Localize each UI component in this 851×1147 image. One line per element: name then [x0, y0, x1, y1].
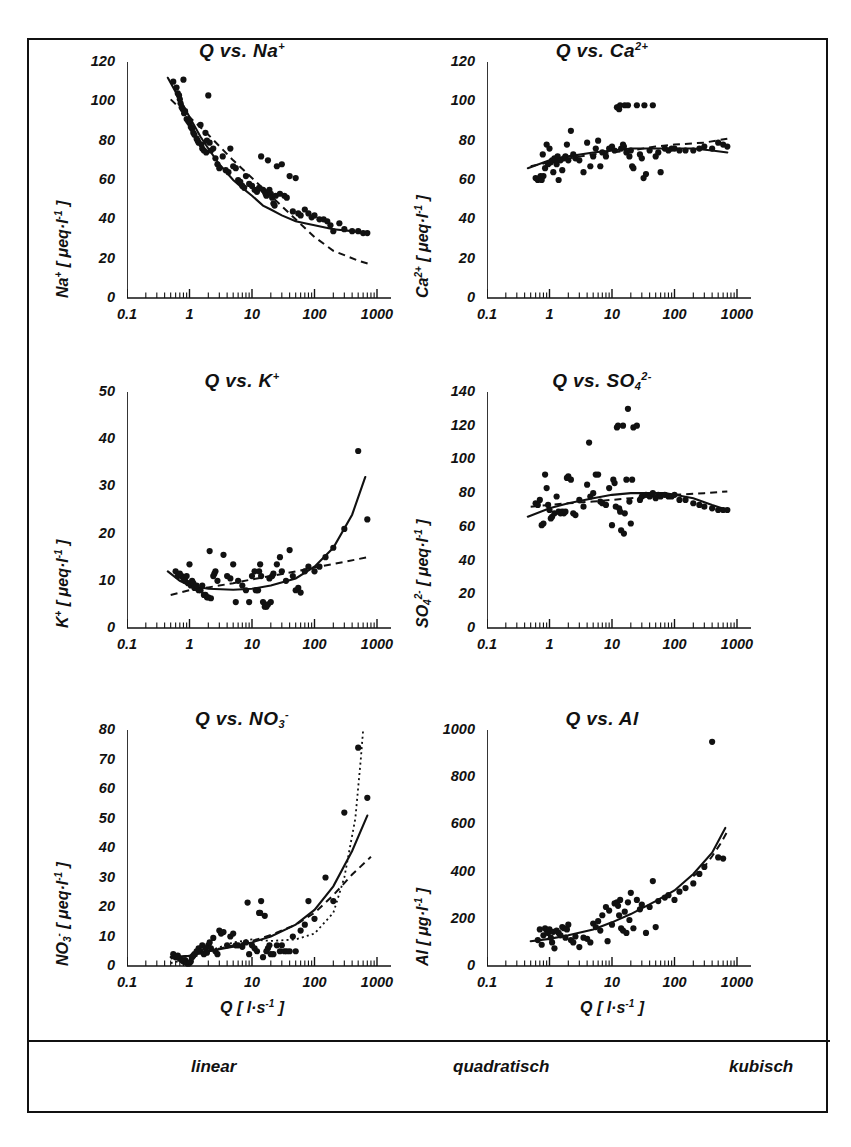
data-point [650, 102, 656, 108]
data-point [576, 497, 582, 503]
data-point [364, 230, 370, 236]
legend-label-linear: linear [191, 1057, 236, 1077]
panel-no3: Q vs. NO3-NO3- [ μeq·l-1 ]01020304050607… [37, 708, 417, 1034]
data-point [279, 568, 285, 574]
data-point [364, 516, 370, 522]
y-tick-no3-7: 70 [37, 751, 115, 767]
data-point [230, 930, 236, 936]
legend-label-kubisch: kubisch [729, 1057, 793, 1077]
y-tick-so4-4: 80 [397, 484, 475, 500]
data-point [184, 573, 190, 579]
data-point [243, 587, 249, 593]
y-axis-label-so4: SO42- [ μeq·l-1 ] [413, 519, 433, 628]
data-point [241, 185, 247, 191]
data-point [208, 595, 214, 601]
panel-title-no3: Q vs. NO3- [107, 708, 377, 730]
data-point [676, 889, 682, 895]
data-point [540, 173, 546, 179]
data-point [268, 599, 274, 605]
fit-curve-quadratisch-na [168, 78, 367, 233]
data-point [542, 472, 548, 478]
data-point [214, 951, 220, 957]
figure-legend: linear quadratisch kubisch [29, 1052, 830, 1098]
data-point [180, 77, 186, 83]
data-point [330, 545, 336, 551]
y-tick-so4-3: 60 [397, 518, 475, 534]
data-point [559, 167, 565, 173]
data-point [283, 578, 289, 584]
data-point [170, 79, 176, 85]
data-point [279, 161, 285, 167]
data-point [220, 153, 226, 159]
data-point [243, 173, 249, 179]
data-point [233, 165, 239, 171]
plot-area-so4 [487, 392, 777, 662]
data-point [549, 939, 555, 945]
data-point [287, 547, 293, 553]
data-point [584, 140, 590, 146]
data-point [539, 942, 545, 948]
data-point [572, 512, 578, 518]
x-axis-label-al: Q [ l·s-1 ] [477, 998, 747, 1017]
data-point [690, 500, 696, 506]
y-tick-so4-2: 40 [397, 552, 475, 568]
legend-separator [29, 1040, 830, 1042]
data-point [246, 951, 252, 957]
data-point [709, 145, 715, 151]
y-tick-al-5: 1000 [397, 721, 475, 737]
data-point [611, 480, 617, 486]
data-point [257, 561, 263, 567]
data-point [214, 578, 220, 584]
data-point [298, 928, 304, 934]
data-point [546, 145, 552, 151]
data-point [336, 220, 342, 226]
data-point [265, 157, 271, 163]
y-tick-ca-1: 20 [397, 250, 475, 266]
data-point [629, 477, 635, 483]
y-tick-no3-1: 10 [37, 928, 115, 944]
data-point [270, 571, 276, 577]
data-point [258, 573, 264, 579]
data-point [182, 108, 188, 114]
data-point [676, 497, 682, 503]
data-point [682, 147, 688, 153]
data-point [316, 564, 322, 570]
data-point [572, 933, 578, 939]
y-tick-k-4: 40 [37, 430, 115, 446]
data-point [628, 890, 634, 896]
data-point [623, 477, 629, 483]
data-point [565, 157, 571, 163]
data-point [355, 745, 361, 751]
data-point [330, 898, 336, 904]
data-point [709, 505, 715, 511]
data-point [349, 228, 355, 234]
data-point [274, 561, 280, 567]
data-point [227, 575, 233, 581]
data-point [696, 871, 702, 877]
data-point [305, 564, 311, 570]
data-point [554, 493, 560, 499]
data-point [570, 939, 576, 945]
data-point [609, 522, 615, 528]
data-point [701, 143, 707, 149]
y-tick-so4-7: 140 [397, 383, 475, 399]
data-point [225, 169, 231, 175]
y-tick-k-2: 20 [37, 525, 115, 541]
data-point [212, 155, 218, 161]
data-point [243, 939, 249, 945]
data-point [311, 568, 317, 574]
data-point [622, 510, 628, 516]
plot-area-na [127, 62, 417, 332]
panel-title-so4: Q vs. SO42- [467, 370, 737, 392]
data-point [639, 155, 645, 161]
data-point [186, 561, 192, 567]
data-point [202, 130, 208, 136]
data-point [641, 102, 647, 108]
data-point [322, 874, 328, 880]
data-point [284, 195, 290, 201]
data-point [576, 944, 582, 950]
data-point [330, 228, 336, 234]
data-point [655, 149, 661, 155]
data-point [603, 502, 609, 508]
data-point [576, 157, 582, 163]
